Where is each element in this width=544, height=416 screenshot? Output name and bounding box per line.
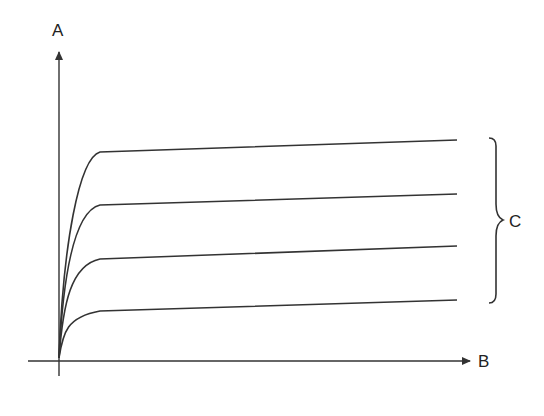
- curves-group: [59, 140, 457, 358]
- curve-family-diagram: A B C: [0, 0, 544, 416]
- curve-4: [59, 140, 457, 358]
- x-axis-label: B: [478, 352, 489, 371]
- bracket-label: C: [509, 212, 521, 231]
- curve-3: [59, 194, 457, 358]
- curve-1: [59, 300, 457, 358]
- y-axis-label: A: [52, 21, 64, 40]
- bracket: [489, 138, 503, 303]
